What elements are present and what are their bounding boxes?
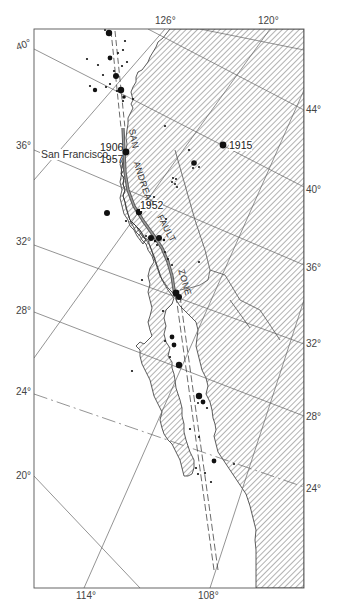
longitude-label-126: 126° xyxy=(155,16,176,26)
year-label-1906: 1906 xyxy=(100,142,123,153)
latitude-label-28-left: 28° xyxy=(16,306,31,316)
latitude-label-20-left: 20° xyxy=(16,471,31,481)
latitude-label-24-left: 24° xyxy=(16,387,31,397)
fault-map xyxy=(0,0,341,604)
latitude-label-32-left: 32° xyxy=(16,237,31,247)
latitude-label-36-left: 36° xyxy=(16,141,31,151)
san-francisco-label: San Francisco xyxy=(40,149,109,160)
latitude-label-32-right: 32° xyxy=(306,339,321,349)
latitude-label-28-right: 28° xyxy=(306,412,321,422)
latitude-label-36-right: 36° xyxy=(306,263,321,273)
mainland-land xyxy=(121,29,304,588)
longitude-label-114: 114° xyxy=(76,591,96,601)
latitude-label-40-right: 40° xyxy=(306,185,321,195)
longitude-label-108: 108° xyxy=(198,591,219,601)
year-label-1915: 1915 xyxy=(229,140,252,151)
year-label-1957: 1957 xyxy=(100,154,123,165)
fault-dashed-north xyxy=(111,31,125,128)
latitude-label-24-right: 24° xyxy=(306,484,321,494)
latitude-label-44-right: 44° xyxy=(306,105,321,115)
longitude-label-120: 120° xyxy=(258,16,279,26)
